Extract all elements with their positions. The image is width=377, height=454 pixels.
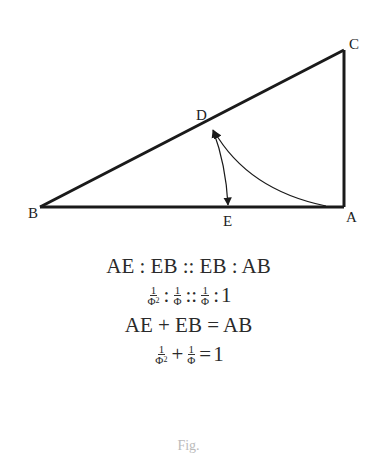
label-a: A [346,209,357,225]
fraction-one-over-phi-squared: 1 Φ2 [154,344,168,365]
label-b: B [28,205,38,221]
arc-a-to-d [214,131,326,206]
side-bc-hypotenuse [40,50,344,207]
fraction-one-over-phi: 1 Φ [200,285,210,306]
label-e: E [223,213,232,229]
label-d: D [196,107,207,123]
equation-proportion-phi: 1 Φ2 : 1 Φ :: 1 Φ : 1 [0,283,377,308]
equation-sum: AE + EB = AB [0,313,377,338]
golden-ratio-triangle-diagram: B A C D E [0,0,377,235]
equation-sum-phi: 1 Φ2 + 1 Φ = 1 [0,342,377,367]
equation-proportion: AE : EB :: EB : AB [0,254,377,279]
fraction-one-over-phi: 1 Φ [172,285,182,306]
fraction-one-over-phi-squared: 1 Φ2 [147,285,161,306]
label-c: C [349,36,359,52]
fraction-one-over-phi: 1 Φ [186,344,196,365]
figure-caption-cut-off: Fig. [0,438,377,454]
